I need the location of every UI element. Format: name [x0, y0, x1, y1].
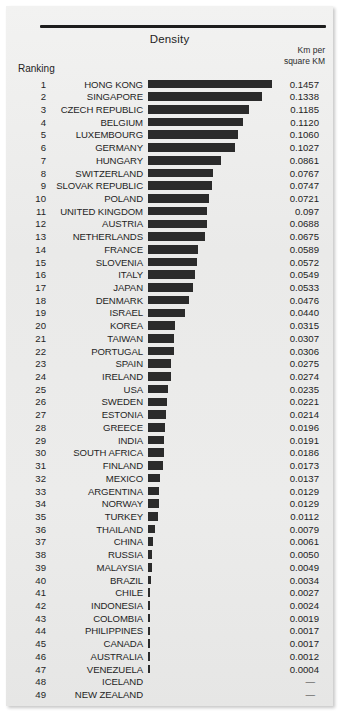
row-rank: 30: [20, 447, 46, 458]
row-rank: 12: [20, 218, 46, 229]
chart-row: 9SLOVAK REPUBLIC0.0747: [6, 180, 333, 193]
row-bar: [148, 499, 159, 508]
row-rank: 33: [20, 486, 46, 497]
chart-row: 26SWEDEN0.0221: [6, 396, 333, 409]
unit-label-line1: Km per: [298, 45, 325, 55]
row-bar: [148, 487, 159, 496]
row-value: 0.0235: [247, 384, 319, 395]
row-bar: [148, 105, 249, 114]
row-bar: [148, 194, 209, 203]
chart-row: 10POLAND0.0721: [6, 192, 333, 205]
row-value: 0.0191: [247, 435, 319, 446]
row-value: 0.1338: [247, 91, 319, 102]
row-bar: [148, 309, 185, 318]
row-rank: 27: [20, 409, 46, 420]
row-bar: [148, 321, 175, 330]
chart-row: 38RUSSIA0.0050: [6, 549, 333, 562]
chart-row: 8SWITZERLAND0.0767: [6, 167, 333, 180]
row-rank: 10: [20, 193, 46, 204]
row-country-label: BRAZIL: [50, 575, 143, 586]
row-bar: [148, 207, 207, 216]
chart-row: 2SINGAPORE0.1338: [6, 91, 333, 104]
row-rank: 2: [20, 91, 46, 102]
row-country-label: LUXEMBOURG: [50, 129, 143, 140]
row-value: 0.0050: [247, 549, 319, 560]
chart-row: 23SPAIN0.0275: [6, 358, 333, 371]
row-bar: [148, 359, 171, 368]
row-rank: 39: [20, 562, 46, 573]
row-rank: 3: [20, 104, 46, 115]
chart-row: 33ARGENTINA0.0129: [6, 485, 333, 498]
row-rank: 16: [20, 269, 46, 280]
row-bar: [148, 512, 158, 521]
row-rank: 8: [20, 168, 46, 179]
chart-row: 42INDONESIA0.0024: [6, 599, 333, 612]
row-bar: [148, 283, 193, 292]
row-country-label: AUSTRIA: [50, 218, 143, 229]
row-country-label: NETHERLANDS: [50, 231, 143, 242]
chart-row: 4BELGIUM0.1120: [6, 116, 333, 129]
row-bar: [148, 448, 164, 457]
row-bar: [148, 296, 189, 305]
row-bar: [148, 576, 151, 585]
row-value: 0.0049: [247, 562, 319, 573]
row-rank: 4: [20, 117, 46, 128]
chart-row: 22PORTUGAL0.0306: [6, 345, 333, 358]
row-rank: 14: [20, 244, 46, 255]
row-rank: 24: [20, 371, 46, 382]
row-country-label: KOREA: [50, 320, 143, 331]
row-rank: 7: [20, 155, 46, 166]
row-value: 0.0019: [247, 613, 319, 624]
row-value: 0.1027: [247, 142, 319, 153]
row-value: 0.0688: [247, 218, 319, 229]
row-value: 0.0034: [247, 575, 319, 586]
row-rank: 26: [20, 396, 46, 407]
row-bar: [148, 156, 221, 165]
row-value: 0.0675: [247, 231, 319, 242]
row-bar: [148, 92, 262, 101]
row-bar: [148, 245, 198, 254]
row-bar: [148, 372, 171, 381]
row-bar: [148, 181, 212, 190]
row-rank: 45: [20, 638, 46, 649]
row-value: 0.0024: [247, 600, 319, 611]
row-country-label: ISRAEL: [50, 307, 143, 318]
chart-row: 35TURKEY0.0112: [6, 510, 333, 523]
chart-row: 17JAPAN0.0533: [6, 282, 333, 295]
row-rank: 5: [20, 129, 46, 140]
row-country-label: MALAYSIA: [50, 562, 143, 573]
row-country-label: NORWAY: [50, 498, 143, 509]
row-country-label: GERMANY: [50, 142, 143, 153]
chart-row: 1HONG KONG0.1457: [6, 78, 333, 91]
row-bar: [148, 601, 150, 610]
row-country-label: FINLAND: [50, 460, 143, 471]
row-country-label: SWITZERLAND: [50, 168, 143, 179]
row-rank: 43: [20, 613, 46, 624]
row-country-label: NEW ZEALAND: [50, 689, 143, 700]
chart-row: 18DENMARK0.0476: [6, 294, 333, 307]
row-value: 0.0861: [247, 155, 319, 166]
row-value: 0.0549: [247, 269, 319, 280]
row-value: 0.0221: [247, 396, 319, 407]
row-rank: 37: [20, 536, 46, 547]
chart-page: Density Km per square KM Ranking 1HONG K…: [6, 6, 333, 706]
row-country-label: INDIA: [50, 435, 143, 446]
row-rank: 34: [20, 498, 46, 509]
row-bar: [148, 474, 160, 483]
row-country-label: USA: [50, 384, 143, 395]
row-country-label: SWEDEN: [50, 396, 143, 407]
chart-row: 40BRAZIL0.0034: [6, 574, 333, 587]
row-bar: [148, 423, 165, 432]
row-rank: 20: [20, 320, 46, 331]
chart-row: 3CZECH REPUBLIC0.1185: [6, 103, 333, 116]
row-value: 0.0137: [247, 473, 319, 484]
row-value: 0.0129: [247, 486, 319, 497]
row-value: 0.0173: [247, 460, 319, 471]
row-rank: 38: [20, 549, 46, 560]
row-country-label: VENEZUELA: [50, 664, 143, 675]
row-rank: 18: [20, 295, 46, 306]
row-value: 0.1060: [247, 129, 319, 140]
row-bar: [148, 232, 205, 241]
row-country-label: POLAND: [50, 193, 143, 204]
row-value: 0.0589: [247, 244, 319, 255]
